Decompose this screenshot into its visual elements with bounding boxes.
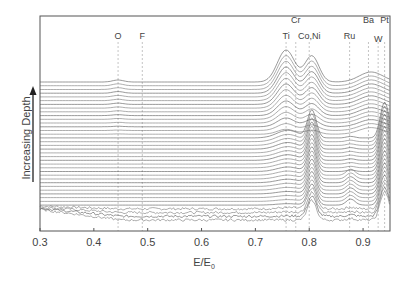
element-label: Ti	[282, 31, 289, 41]
spectrum-trace	[40, 127, 390, 161]
spectrum-trace	[40, 135, 390, 168]
spectrum-trace	[40, 159, 390, 190]
plot-frame	[40, 16, 390, 231]
spectrum-trace	[40, 147, 390, 179]
spectrum-trace	[40, 112, 390, 123]
x-tick-label: 0.4	[86, 236, 101, 248]
spectrum-trace	[40, 107, 390, 120]
x-axis-title: E/E0	[193, 256, 215, 270]
spectrum-trace	[40, 119, 390, 153]
x-tick-label: 0.3	[32, 236, 47, 248]
spectrum-trace	[40, 56, 390, 86]
x-tick-label: 0.9	[355, 236, 370, 248]
spectrum-trace	[40, 139, 390, 172]
spectrum-trace	[40, 191, 390, 221]
spectrum-trace	[40, 95, 390, 112]
element-label: W	[374, 34, 383, 44]
spectrum-trace	[40, 151, 390, 183]
element-label: F	[140, 31, 146, 41]
element-label: O	[115, 31, 122, 41]
spectrum-trace	[40, 143, 390, 175]
spectrum-trace	[40, 115, 390, 150]
spectrum-trace	[40, 128, 390, 135]
element-label: Pt	[380, 15, 389, 25]
spectrum-trace	[40, 123, 390, 157]
element-label: Ba	[363, 15, 374, 25]
spectrum-trace	[40, 90, 390, 109]
spectrum-trace	[40, 50, 390, 82]
spectrum-trace	[40, 184, 390, 214]
y-axis-title: Increasing Depth	[20, 96, 32, 179]
x-tick-label: 0.6	[194, 236, 209, 248]
spectrum-trace	[40, 131, 390, 164]
spectrum-trace	[40, 84, 390, 104]
element-label: Cr	[291, 15, 301, 25]
x-tick-label: 0.7	[248, 236, 263, 248]
x-tick-label: 0.8	[302, 236, 317, 248]
spectrum-trace	[40, 180, 390, 210]
x-tick-label: 0.5	[140, 236, 155, 248]
spectra-traces	[40, 50, 390, 221]
element-label: Co,Ni	[298, 31, 321, 41]
element-label: Ru	[344, 31, 356, 41]
spectrum-trace	[40, 155, 390, 187]
